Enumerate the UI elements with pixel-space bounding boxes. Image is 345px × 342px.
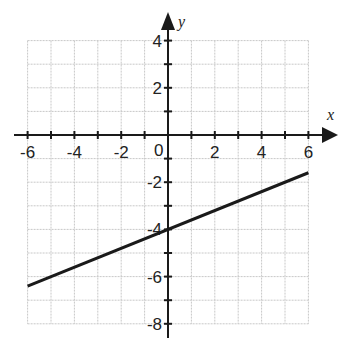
x-tick-label: 4 xyxy=(257,143,266,162)
y-tick-label: 4 xyxy=(153,32,162,51)
x-axis-arrow-icon xyxy=(322,127,338,143)
y-tick-label: -8 xyxy=(147,315,162,334)
x-tick-label: 2 xyxy=(210,143,219,162)
x-axis-label: x xyxy=(326,106,334,123)
axes xyxy=(14,12,338,338)
y-tick-labels: 42-2-4-6-8 xyxy=(147,32,162,334)
y-tick-label: 2 xyxy=(153,79,162,98)
origin-label: 0 xyxy=(154,141,163,160)
y-axis-label: y xyxy=(176,13,186,31)
y-tick-label: -2 xyxy=(147,173,162,192)
x-tick-label: -6 xyxy=(20,143,35,162)
coordinate-plane: -6-4-2246 42-2-4-6-8 x y 0 xyxy=(0,0,345,342)
y-axis-arrow-icon xyxy=(161,12,175,30)
x-tick-label: 6 xyxy=(304,143,313,162)
x-tick-label: -2 xyxy=(114,143,129,162)
y-tick-label: -6 xyxy=(147,268,162,287)
x-tick-label: -4 xyxy=(67,143,82,162)
